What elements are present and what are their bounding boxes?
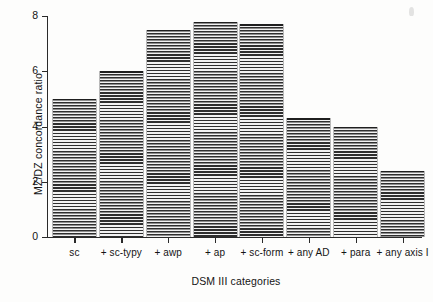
bar: [239, 24, 284, 237]
x-tick-label: + sc-typy: [101, 247, 142, 258]
y-tick-label: 8: [32, 9, 38, 21]
bar: [52, 99, 97, 237]
y-tick: 4: [42, 127, 47, 128]
plot-area: 02468 sc+ sc-typy+ awp+ ap+ sc-form+ any…: [47, 16, 422, 238]
x-tick-label: sc: [69, 247, 79, 258]
y-tick: 0: [42, 237, 47, 238]
x-tick: [121, 238, 122, 243]
x-tick-label: + any AD: [288, 247, 330, 258]
x-tick-label: + awp: [154, 247, 181, 258]
bar: [333, 127, 378, 238]
x-tick: [309, 238, 310, 243]
y-tick: 8: [42, 16, 47, 17]
x-axis-line: [47, 237, 422, 238]
bar: [286, 118, 331, 237]
x-tick-label: + sc-form: [241, 247, 284, 258]
x-tick: [403, 238, 404, 243]
y-tick-label: 0: [32, 230, 38, 242]
bar: [380, 171, 425, 237]
bar: [146, 30, 191, 237]
x-tick: [215, 238, 216, 243]
bar: [193, 22, 238, 237]
x-axis-title: DSM III categories: [46, 275, 426, 287]
y-tick: 6: [42, 71, 47, 72]
bar: [99, 71, 144, 237]
y-tick-label: 6: [32, 64, 38, 76]
x-tick: [168, 238, 169, 243]
y-tick-label: 4: [32, 120, 38, 132]
figure: MZ/DZ concordance ratio 02468 sc+ sc-typ…: [0, 0, 433, 302]
scan-artifact: [409, 7, 414, 16]
x-tick: [356, 238, 357, 243]
x-tick-label: + ap: [205, 247, 225, 258]
y-tick-label: 2: [32, 175, 38, 187]
y-tick: 2: [42, 182, 47, 183]
x-tick: [262, 238, 263, 243]
x-tick: [74, 238, 75, 243]
x-tick-label: + any axis I: [377, 247, 429, 258]
x-tick-label: + para: [341, 247, 370, 258]
y-axis-line: [47, 16, 48, 238]
